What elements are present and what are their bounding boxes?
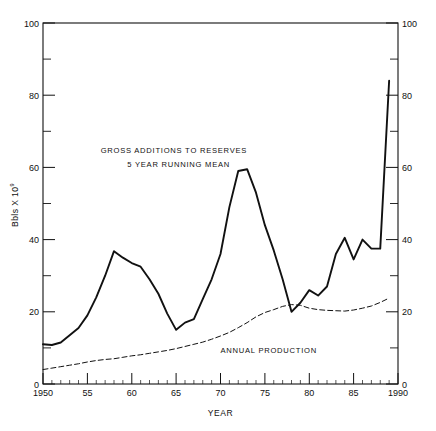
y-axis-title-exponent: 9	[9, 183, 15, 187]
xtick-label-85: 85	[349, 388, 359, 398]
ytick-label-80: 80	[29, 91, 39, 101]
gross-additions-label-line2: 5 YEAR RUNNING MEAN	[127, 160, 230, 169]
annual-production-label: ANNUAL PRODUCTION	[221, 346, 317, 355]
ytick-right-label-40: 40	[402, 235, 412, 245]
xtick-label-70: 70	[215, 388, 225, 398]
xtick-label-1950: 1950	[33, 388, 53, 398]
y-axis-left-ticks	[43, 23, 55, 384]
svg-text:Bbls X 109: Bbls X 109	[9, 183, 20, 227]
plot-frame	[43, 23, 398, 384]
y-axis-title-text: Bbls X 10	[10, 187, 20, 227]
gross-additions-label-line1: GROSS ADDITIONS TO RESERVES	[101, 146, 247, 155]
xtick-label-60: 60	[127, 388, 137, 398]
y-axis-right-tick-labels: 0 20 40 60 80 100	[402, 19, 417, 390]
ytick-right-label-60: 60	[402, 163, 412, 173]
ytick-label-100: 100	[24, 19, 39, 29]
y-axis-right-ticks	[386, 23, 398, 384]
xtick-label-80: 80	[304, 388, 314, 398]
ytick-right-label-80: 80	[402, 91, 412, 101]
series-annual-production	[43, 298, 389, 369]
ytick-right-label-100: 100	[402, 19, 417, 29]
y-axis-left-tick-labels: 0 20 40 60 80 100	[24, 19, 39, 390]
y-axis-title: Bbls X 109	[9, 183, 20, 227]
ytick-right-label-20: 20	[402, 307, 412, 317]
xtick-label-55: 55	[82, 388, 92, 398]
series-gross-additions	[43, 81, 389, 345]
ytick-label-20: 20	[29, 307, 39, 317]
ytick-label-40: 40	[29, 235, 39, 245]
reserves-production-chart: 0 20 40 60 80 100 0 20 40 60 80 100	[0, 0, 436, 431]
x-axis-tick-labels: 1950 55 60 65 70 75 80 85 1990	[33, 388, 408, 398]
x-axis-title: YEAR	[208, 408, 234, 418]
xtick-label-1990: 1990	[388, 388, 408, 398]
ytick-label-60: 60	[29, 163, 39, 173]
xtick-label-65: 65	[171, 388, 181, 398]
xtick-label-75: 75	[260, 388, 270, 398]
